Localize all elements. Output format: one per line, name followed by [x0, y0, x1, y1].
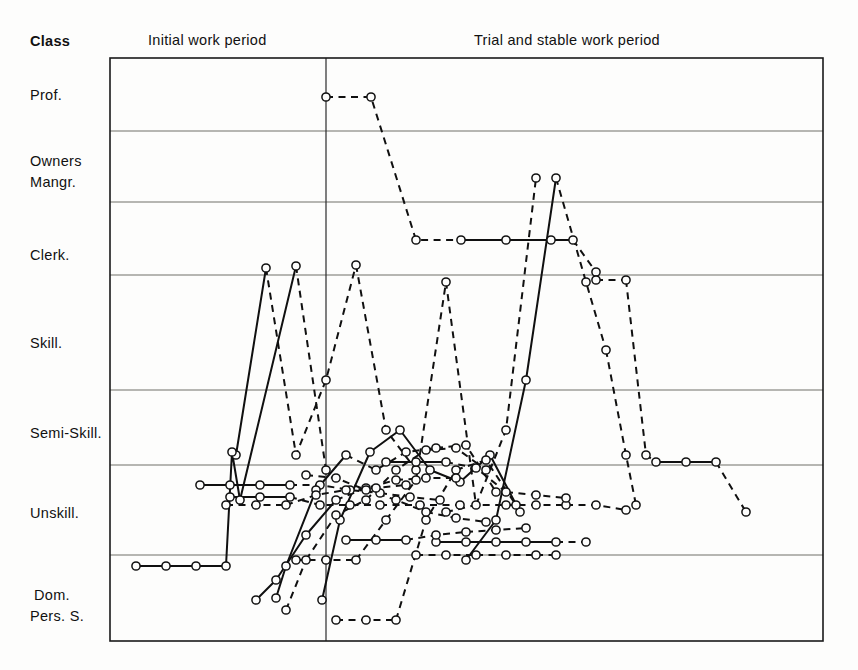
- data-point-marker: [436, 496, 444, 504]
- data-point-marker: [582, 278, 590, 286]
- data-point-marker: [318, 596, 326, 604]
- data-point-marker: [346, 501, 354, 509]
- data-point-marker: [522, 524, 530, 532]
- data-point-marker: [547, 236, 555, 244]
- data-point-marker: [406, 493, 414, 501]
- series-line-case-2: [236, 268, 266, 455]
- data-point-marker: [472, 551, 480, 559]
- data-point-marker: [432, 444, 440, 452]
- data-point-marker: [252, 501, 260, 509]
- data-point-marker: [382, 516, 390, 524]
- data-point-marker: [302, 556, 310, 564]
- data-point-marker: [422, 446, 430, 454]
- data-point-marker: [422, 474, 430, 482]
- data-point-marker: [322, 466, 330, 474]
- data-point-marker: [352, 261, 360, 269]
- data-point-marker: [462, 528, 470, 536]
- data-point-marker: [632, 501, 640, 509]
- data-point-marker: [282, 562, 290, 570]
- series-line-case-14: [306, 500, 366, 560]
- series-layer: [136, 97, 746, 620]
- data-point-marker: [492, 538, 500, 546]
- data-point-marker: [532, 491, 540, 499]
- data-point-marker: [569, 236, 577, 244]
- data-point-marker: [462, 556, 470, 564]
- data-point-marker: [522, 376, 530, 384]
- data-point-marker: [322, 376, 330, 384]
- data-point-marker: [366, 448, 374, 456]
- data-point-marker: [552, 538, 560, 546]
- data-point-marker: [582, 538, 590, 546]
- data-point-marker: [712, 458, 720, 466]
- data-point-marker: [432, 531, 440, 539]
- data-point-marker: [442, 551, 450, 559]
- data-point-marker: [422, 516, 430, 524]
- series-line-case-9: [556, 178, 606, 350]
- class-mobility-figure: Class Initial work period Trial and stab…: [0, 0, 858, 670]
- data-point-marker: [342, 486, 350, 494]
- data-point-marker: [472, 464, 480, 472]
- series-line-case-19: [626, 280, 656, 462]
- data-point-marker: [412, 476, 420, 484]
- series-line-case-1: [573, 240, 596, 272]
- data-point-marker: [412, 466, 420, 474]
- data-point-marker: [462, 441, 470, 449]
- data-point-marker: [412, 236, 420, 244]
- data-point-marker: [502, 551, 510, 559]
- data-point-marker: [502, 236, 510, 244]
- data-point-marker: [222, 562, 230, 570]
- data-point-marker: [367, 93, 375, 101]
- data-point-marker: [492, 526, 500, 534]
- data-point-marker: [642, 451, 650, 459]
- data-point-marker: [392, 476, 400, 484]
- data-point-marker: [342, 536, 350, 544]
- data-point-marker: [622, 276, 630, 284]
- data-point-marker: [592, 501, 600, 509]
- data-point-marker: [402, 448, 410, 456]
- data-point-marker: [402, 481, 410, 489]
- marker-layer: [132, 93, 750, 624]
- data-point-marker: [362, 496, 370, 504]
- data-point-marker: [482, 518, 490, 526]
- data-point-marker: [342, 451, 350, 459]
- data-point-marker: [316, 501, 324, 509]
- data-point-marker: [252, 596, 260, 604]
- data-point-marker: [742, 508, 750, 516]
- data-point-marker: [372, 484, 380, 492]
- data-point-marker: [522, 538, 530, 546]
- data-point-marker: [452, 444, 460, 452]
- data-point-marker: [226, 481, 234, 489]
- data-point-marker: [322, 93, 330, 101]
- series-line-case-2: [266, 265, 356, 455]
- data-point-marker: [502, 501, 510, 509]
- data-point-marker: [256, 481, 264, 489]
- data-point-marker: [502, 426, 510, 434]
- data-point-marker: [562, 494, 570, 502]
- data-point-marker: [192, 562, 200, 570]
- data-point-marker: [442, 508, 450, 516]
- data-point-marker: [332, 474, 340, 482]
- data-point-marker: [402, 536, 410, 544]
- data-point-marker: [292, 451, 300, 459]
- data-point-marker: [362, 486, 370, 494]
- data-point-marker: [312, 491, 320, 499]
- data-point-marker: [392, 496, 400, 504]
- data-point-marker: [302, 531, 310, 539]
- data-point-marker: [652, 458, 660, 466]
- data-point-marker: [482, 466, 490, 474]
- data-point-marker: [622, 451, 630, 459]
- data-point-marker: [552, 551, 560, 559]
- data-point-marker: [236, 496, 244, 504]
- data-point-marker: [492, 516, 500, 524]
- data-point-marker: [532, 174, 540, 182]
- data-point-marker: [362, 616, 370, 624]
- data-point-marker: [492, 488, 500, 496]
- plot-frame: [110, 58, 823, 641]
- data-point-marker: [462, 538, 470, 546]
- data-point-marker: [282, 606, 290, 614]
- data-point-marker: [286, 493, 294, 501]
- data-point-marker: [132, 562, 140, 570]
- series-line-case-8: [416, 282, 476, 505]
- data-point-marker: [592, 276, 600, 284]
- data-point-marker: [302, 471, 310, 479]
